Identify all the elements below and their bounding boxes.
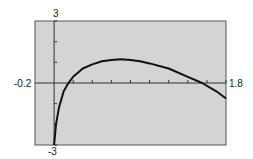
y-min-label: -3: [48, 147, 57, 157]
x-min-label: -0.2: [14, 79, 31, 89]
chart: [0, 0, 253, 159]
x-max-label: 1.8: [229, 79, 243, 89]
y-max-label: 3: [53, 9, 59, 19]
